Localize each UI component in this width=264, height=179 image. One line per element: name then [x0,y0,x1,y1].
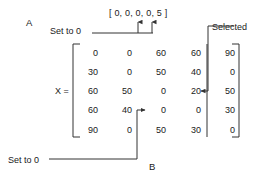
matrix-figure: A [ 0, 0, 0, 0, 5 ] Set to 0 Selected X … [0,0,264,179]
matrix-cell: 0 [179,105,201,115]
set-to-zero-top-label: Set to 0 [50,26,81,36]
matrix-cell: 0 [110,125,132,135]
matrix-cell-selected: 90 [213,48,235,58]
matrix-cell: 30 [76,67,98,77]
matrix-cell: 50 [110,86,132,96]
matrix-cell: 60 [76,105,98,115]
set-to-zero-top-leader [92,22,153,33]
matrix-name-label: X = [55,86,69,96]
matrix-cell: 0 [76,48,98,58]
matrix-cell: 40 [110,105,132,115]
matrix-cell-selected: 0 [213,67,235,77]
set-to-zero-bottom-label: Set to 0 [8,155,39,165]
matrix-cell: 60 [179,48,201,58]
matrix-cell: 30 [179,125,201,135]
matrix-cell: 40 [179,67,201,77]
matrix-cell: 0 [110,67,132,77]
matrix-cell-arrow-target: 20 [179,86,201,96]
selected-leader [201,26,234,91]
panel-b-label: B [149,162,155,172]
matrix-cell: 0 [144,86,166,96]
matrix-cell: 60 [76,86,98,96]
matrix-cell-selected: 0 [213,125,235,135]
matrix-cell-selected: 30 [213,105,235,115]
matrix-cell: 90 [76,125,98,135]
matrix-cell: 50 [144,125,166,135]
selected-label: Selected [212,22,247,32]
matrix-cell: 0 [110,48,132,58]
matrix-cell-selected: 50 [213,86,235,96]
vector-label: [ 0, 0, 0, 0, 5 ] [109,8,167,18]
panel-a-label: A [26,18,32,28]
matrix-cell-arrow-target: 0 [144,105,166,115]
matrix-cell: 50 [144,67,166,77]
matrix-cell: 60 [144,48,166,58]
